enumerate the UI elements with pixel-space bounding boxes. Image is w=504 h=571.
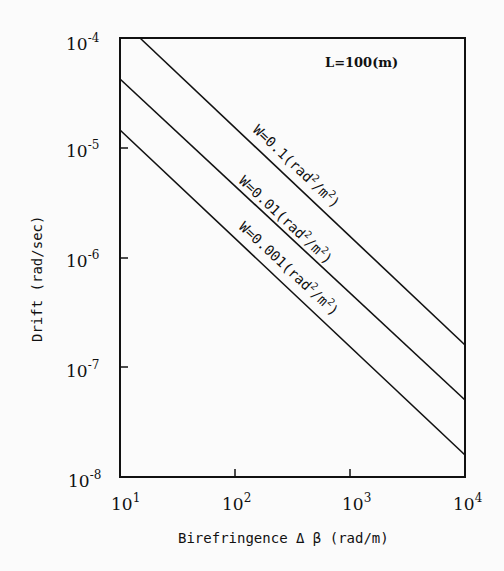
y-tick-labels: 10-4 10-5 10-6 10-7 10-8	[66, 31, 101, 491]
x-tick-label: 101	[111, 491, 140, 514]
y-tick-label: 10-6	[66, 248, 99, 271]
x-tick-label: 103	[342, 491, 371, 514]
drift-vs-birefringence-chart: 10-4 10-5 10-6 10-7 10-8 101 102 103 104…	[0, 0, 504, 571]
y-tick-label: 10-8	[68, 468, 101, 491]
x-tick-labels: 101 102 103 104	[111, 491, 483, 514]
y-axis-title: Drift (rad/sec)	[29, 216, 45, 342]
y-tick-label: 10-5	[66, 138, 99, 161]
x-axis-title: Birefringence Δ β (rad/m)	[178, 530, 389, 546]
y-ticks	[120, 148, 128, 367]
x-ticks	[235, 469, 350, 477]
parameter-annotation: L=100(m)	[325, 55, 398, 70]
plot-frame	[120, 38, 465, 477]
x-tick-label: 102	[222, 491, 251, 514]
curve-w-0.1	[140, 38, 465, 345]
curve-w-0.001	[120, 130, 465, 455]
x-tick-label: 104	[453, 491, 483, 514]
curves	[120, 38, 465, 455]
curve-w-0.01	[120, 79, 465, 400]
y-tick-label: 10-4	[66, 31, 100, 54]
y-tick-label: 10-7	[66, 358, 99, 381]
